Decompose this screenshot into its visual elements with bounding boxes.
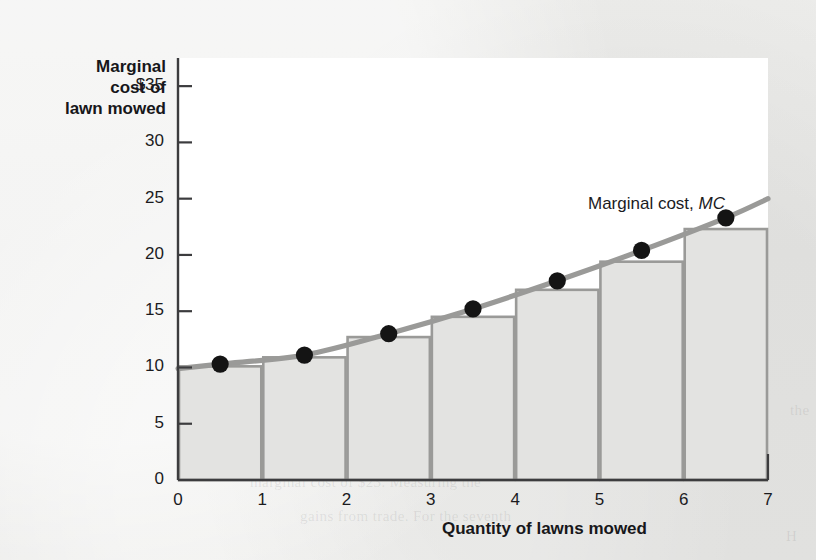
plot-area — [178, 58, 768, 480]
data-point-marker[interactable] — [464, 300, 481, 317]
x-tick-label: 4 — [500, 490, 530, 510]
y-tick-label: $35 — [104, 75, 164, 95]
y-axis-title-line-2: lawn mowed — [26, 98, 166, 119]
marginal-cost-bar — [516, 290, 598, 480]
marginal-cost-bar — [600, 262, 682, 480]
x-tick-label: 0 — [163, 490, 193, 510]
x-tick-label: 5 — [584, 490, 614, 510]
y-tick-label: 30 — [104, 131, 164, 151]
x-axis-title: Quantity of lawns mowed — [442, 518, 647, 539]
curve-annotation-symbol: MC — [699, 194, 725, 213]
y-axis-title-line-0: Marginal — [26, 56, 166, 77]
data-point-marker[interactable] — [549, 272, 566, 289]
x-tick-label: 6 — [669, 490, 699, 510]
x-tick-label: 7 — [753, 490, 783, 510]
y-tick-label: 10 — [104, 356, 164, 376]
y-tick-label: 15 — [104, 300, 164, 320]
y-tick-label: 5 — [104, 413, 164, 433]
curve-annotation-text: Marginal cost, — [588, 194, 699, 213]
data-point-marker[interactable] — [212, 355, 229, 372]
marginal-cost-bar — [348, 337, 430, 480]
data-point-marker[interactable] — [296, 346, 313, 363]
data-point-marker[interactable] — [380, 325, 397, 342]
x-tick-label: 3 — [416, 490, 446, 510]
y-tick-label: 25 — [104, 188, 164, 208]
marginal-cost-bar — [685, 229, 767, 480]
x-tick-label: 1 — [247, 490, 277, 510]
marginal-cost-bar — [432, 317, 514, 480]
marginal-cost-bar — [263, 357, 345, 480]
marginal-cost-chart-figure: Marginalcost oflawn mowed Quantity of la… — [0, 0, 816, 560]
x-tick-label: 2 — [332, 490, 362, 510]
curve-annotation-label: Marginal cost, MC — [588, 194, 725, 214]
data-point-marker[interactable] — [633, 242, 650, 259]
y-tick-label: 0 — [104, 469, 164, 489]
y-tick-label: 20 — [104, 244, 164, 264]
